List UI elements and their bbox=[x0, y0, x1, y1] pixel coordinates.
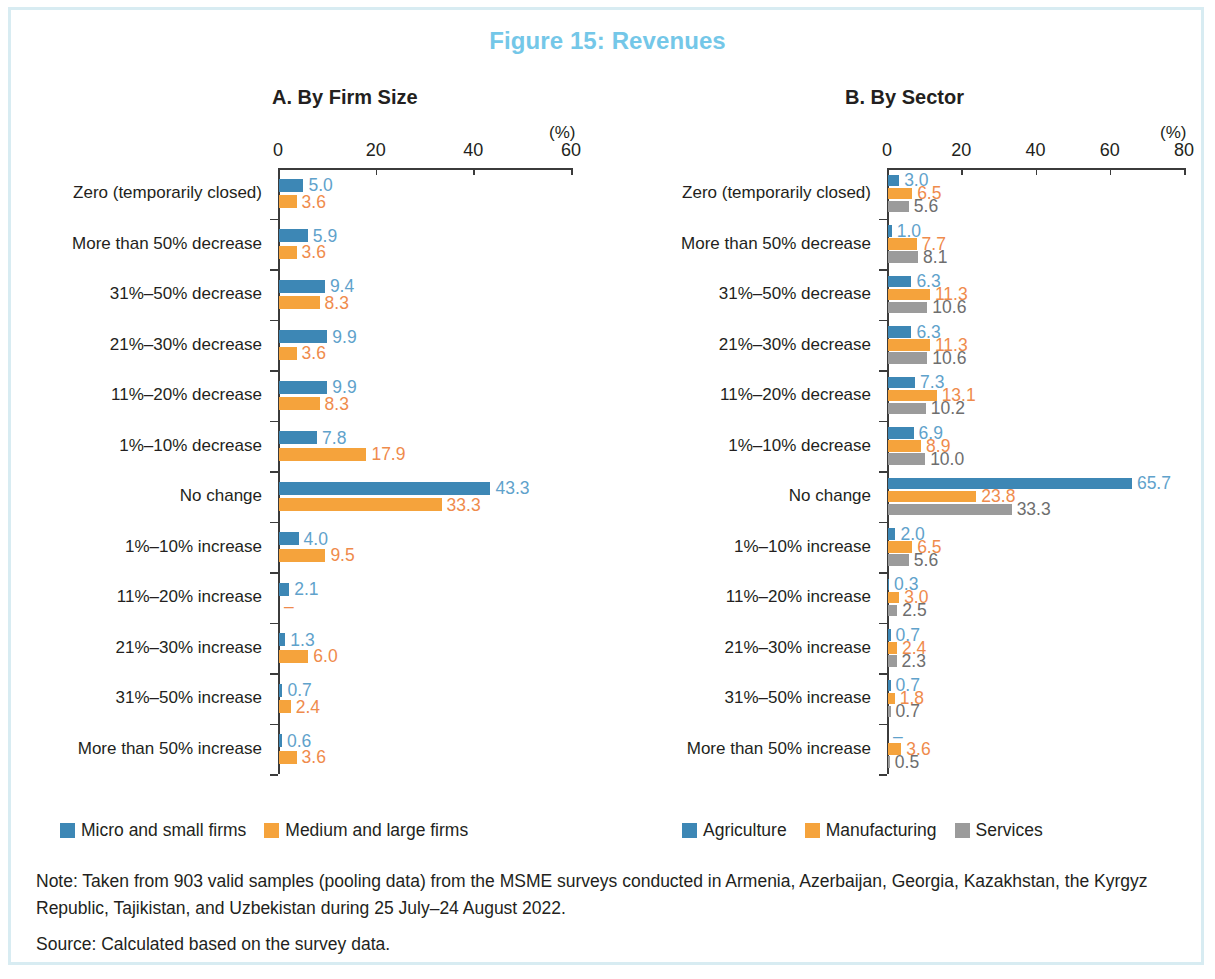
category-label: 21%–30% decrease bbox=[610, 335, 871, 355]
bar bbox=[888, 693, 895, 705]
bar bbox=[888, 706, 891, 718]
bar bbox=[279, 734, 282, 747]
bar bbox=[888, 289, 930, 301]
x-axis-tick-label: 40 bbox=[463, 140, 483, 161]
legend-swatch bbox=[682, 823, 697, 838]
x-axis-tick-label: 60 bbox=[561, 140, 581, 161]
x-axis-tick bbox=[571, 168, 573, 175]
bar bbox=[279, 280, 325, 293]
bar bbox=[279, 532, 299, 545]
legend-label: Services bbox=[976, 820, 1043, 841]
bar bbox=[888, 403, 926, 415]
bar bbox=[279, 583, 289, 596]
legend-swatch bbox=[955, 823, 970, 838]
legend-swatch bbox=[805, 823, 820, 838]
bar bbox=[888, 453, 925, 465]
bar-value-label: 3.6 bbox=[302, 242, 326, 263]
legend-item[interactable]: Medium and large firms bbox=[264, 820, 468, 841]
legend-by-firm-size: Micro and small firmsMedium and large fi… bbox=[60, 820, 486, 841]
category-label: 31%–50% decrease bbox=[0, 284, 262, 304]
y-axis-tick bbox=[270, 421, 278, 423]
category-label: 31%–50% decrease bbox=[610, 284, 871, 304]
bar-value-label: 2.5 bbox=[902, 600, 926, 621]
bar-value-label: 0.5 bbox=[895, 751, 919, 772]
category-label: 21%–30% decrease bbox=[0, 335, 262, 355]
y-axis-tick bbox=[270, 269, 278, 271]
bar bbox=[279, 179, 303, 192]
legend-swatch bbox=[264, 823, 279, 838]
source-text: Source: Calculated based on the survey d… bbox=[36, 931, 1176, 958]
bar bbox=[888, 188, 912, 200]
bar bbox=[888, 390, 937, 402]
category-label: 11%–20% decrease bbox=[610, 385, 871, 405]
category-label: 11%–20% decrease bbox=[0, 385, 262, 405]
legend-item[interactable]: Manufacturing bbox=[805, 820, 937, 841]
legend-item[interactable]: Agriculture bbox=[682, 820, 787, 841]
bar bbox=[279, 751, 297, 764]
bar bbox=[279, 549, 325, 562]
bar bbox=[888, 629, 891, 641]
panel-a-title: A. By Firm Size bbox=[272, 86, 418, 109]
x-axis-tick-label: 0 bbox=[882, 140, 892, 161]
legend-item[interactable]: Services bbox=[955, 820, 1043, 841]
bar-value-label: 6.0 bbox=[313, 646, 337, 667]
chart-panel-by-sector: 020406080Zero (temporarily closed)3.06.5… bbox=[610, 140, 1215, 820]
x-axis-line bbox=[278, 168, 571, 170]
y-axis-tick bbox=[879, 673, 887, 675]
bar bbox=[888, 605, 897, 617]
bar-value-label: 8.1 bbox=[923, 246, 947, 267]
y-axis-tick bbox=[270, 522, 278, 524]
category-label: 21%–30% increase bbox=[610, 638, 871, 658]
bar bbox=[279, 650, 308, 663]
bar-value-label: 3.6 bbox=[302, 191, 326, 212]
y-axis-tick bbox=[270, 673, 278, 675]
y-axis-tick bbox=[270, 370, 278, 372]
x-axis-tick bbox=[1036, 168, 1038, 175]
bar-value-label: 2.4 bbox=[296, 696, 320, 717]
category-label: 1%–10% increase bbox=[610, 537, 871, 557]
y-axis-tick bbox=[270, 724, 278, 726]
category-label: Zero (temporarily closed) bbox=[610, 183, 871, 203]
x-axis-tick-label: 80 bbox=[1174, 140, 1194, 161]
bar bbox=[888, 491, 976, 503]
bar bbox=[888, 276, 911, 288]
bar bbox=[279, 498, 442, 511]
x-axis-tick bbox=[961, 168, 963, 175]
y-axis-tick bbox=[879, 421, 887, 423]
bar bbox=[888, 175, 899, 187]
bar-value-label: 10.0 bbox=[930, 448, 964, 469]
y-axis-tick bbox=[879, 320, 887, 322]
bar bbox=[888, 377, 915, 389]
bar-value-label: 1.3 bbox=[290, 629, 314, 650]
category-label: More than 50% decrease bbox=[0, 234, 262, 254]
y-axis-tick bbox=[270, 623, 278, 625]
bar-value-label: 7.8 bbox=[322, 427, 346, 448]
bar bbox=[888, 655, 897, 667]
bar bbox=[888, 302, 927, 314]
category-label: No change bbox=[0, 486, 262, 506]
legend-item[interactable]: Micro and small firms bbox=[60, 820, 246, 841]
x-axis-tick-label: 20 bbox=[366, 140, 386, 161]
category-label: More than 50% increase bbox=[0, 739, 262, 759]
bar bbox=[888, 592, 899, 604]
bar bbox=[888, 756, 890, 768]
bar bbox=[279, 684, 282, 697]
y-axis-tick bbox=[270, 471, 278, 473]
bar-value-label: 9.9 bbox=[332, 326, 356, 347]
bar bbox=[888, 504, 1012, 516]
bar-value-label: 2.3 bbox=[902, 650, 926, 671]
legend-by-sector: AgricultureManufacturingServices bbox=[682, 820, 1061, 841]
bar bbox=[279, 229, 308, 242]
bar-value-label: 43.3 bbox=[495, 478, 529, 499]
bar bbox=[279, 347, 297, 360]
legend-label: Agriculture bbox=[703, 820, 787, 841]
y-axis-tick bbox=[270, 320, 278, 322]
category-label: 21%–30% increase bbox=[0, 638, 262, 658]
bar bbox=[279, 431, 317, 444]
legend-label: Micro and small firms bbox=[81, 820, 246, 841]
bar bbox=[888, 554, 909, 566]
bar bbox=[279, 330, 327, 343]
bar bbox=[888, 339, 930, 351]
x-axis-tick bbox=[376, 168, 378, 175]
bar bbox=[888, 352, 927, 364]
